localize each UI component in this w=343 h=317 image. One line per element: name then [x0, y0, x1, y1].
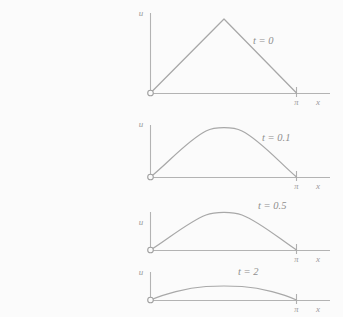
panel-t0-pi-label: π — [294, 97, 299, 107]
panel-t05-x-label: x — [315, 254, 320, 264]
panel-t05: u x π t = 0.5 — [139, 200, 330, 264]
panel-t0-origin-marker — [148, 90, 154, 96]
panel-t2-pi-label: π — [294, 304, 299, 314]
panel-t01: u x π t = 0.1 — [139, 119, 330, 191]
panel-t2-curve — [151, 286, 297, 300]
panel-t01-time-annotation: t = 0.1 — [262, 132, 290, 143]
panel-t01-u-label: u — [139, 119, 144, 129]
panel-t2-x-label: x — [315, 304, 320, 314]
panel-t0-curve — [151, 19, 297, 93]
panel-t2-u-label: u — [139, 267, 144, 277]
panel-t0-x-label: x — [315, 97, 320, 107]
panel-t01-x-label: x — [315, 181, 320, 191]
panel-t05-curve — [151, 212, 297, 250]
panel-t01-pi-label: π — [294, 181, 299, 191]
panel-t05-origin-marker — [148, 247, 154, 253]
panel-t2-time-annotation: t = 2 — [238, 266, 259, 277]
panel-t0-time-annotation: t = 0 — [253, 35, 274, 46]
heat-equation-figure: u x π t = 0 u x π t = 0.1 u x π — [0, 0, 343, 317]
panel-t0: u x π t = 0 — [139, 8, 330, 107]
panel-t01-origin-marker — [148, 174, 154, 180]
panel-t05-time-annotation: t = 0.5 — [258, 200, 286, 211]
panel-t0-u-label: u — [139, 8, 144, 18]
figure-container: u x π t = 0 u x π t = 0.1 u x π — [0, 0, 343, 317]
panel-t05-pi-label: π — [294, 254, 299, 264]
panel-t2: u x π t = 2 — [139, 266, 330, 314]
panel-t05-u-label: u — [139, 217, 144, 227]
panel-t2-origin-marker — [148, 297, 154, 303]
